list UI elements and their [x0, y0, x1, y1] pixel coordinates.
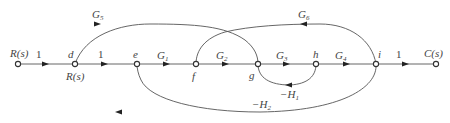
- label-d: d: [68, 48, 74, 60]
- gain-R-d: 1: [36, 48, 42, 60]
- signal-flow-graph: R(s) d R(s) e f g h i C(s) 1 1 G1 G2 G3 …: [0, 0, 450, 123]
- gain-labels: 1 1 G1 G2 G3 G4 1 G5 G6 −H1 −H2: [36, 8, 402, 112]
- gain-d-e: 1: [98, 48, 104, 60]
- node-i: [373, 61, 378, 66]
- branch-H1: [258, 64, 316, 85]
- gain-G1: G1: [157, 49, 168, 63]
- gain-H1: −H1: [280, 88, 299, 102]
- gain-G6: G6: [298, 8, 310, 22]
- node-d: [72, 61, 77, 66]
- label-i: i: [378, 48, 381, 60]
- node-e: [134, 61, 139, 66]
- label-g: g: [249, 69, 255, 81]
- label-e: e: [133, 48, 138, 60]
- label-d-sub: R(s): [65, 70, 85, 83]
- label-input: R(s): [9, 47, 29, 60]
- label-h: h: [313, 48, 319, 60]
- gain-G2: G2: [216, 49, 228, 63]
- label-f: f: [192, 70, 197, 82]
- arrowheads: [42, 22, 409, 115]
- node-input: [15, 61, 20, 66]
- gain-G3: G3: [276, 49, 288, 63]
- node-output: [433, 61, 438, 66]
- gain-G4: G4: [335, 49, 347, 63]
- node-h: [313, 61, 318, 66]
- node-f: [193, 61, 198, 66]
- gain-i-C: 1: [396, 48, 402, 60]
- node-g: [255, 61, 260, 66]
- gain-H2: −H2: [252, 98, 271, 112]
- gain-G5: G5: [92, 8, 104, 22]
- label-output: C(s): [424, 47, 443, 60]
